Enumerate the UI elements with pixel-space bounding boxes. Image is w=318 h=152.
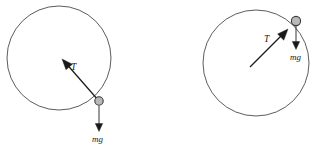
left-weight-arrowhead: [95, 124, 102, 132]
left-weight-label: mg: [92, 134, 103, 144]
right-circle-path: [203, 10, 309, 116]
right-weight-vector: mg: [290, 26, 301, 62]
right-bob: [291, 16, 300, 25]
right-diagram: T mg: [203, 10, 309, 116]
left-tension-label: T: [71, 62, 77, 72]
figure-canvas: T mg T mg: [0, 0, 318, 152]
right-weight-arrowhead: [292, 42, 299, 50]
right-weight-label: mg: [290, 52, 301, 62]
left-bob: [95, 97, 103, 105]
left-circle-path: [7, 6, 111, 110]
left-weight-vector: mg: [92, 106, 103, 144]
left-diagram: T mg: [7, 6, 111, 144]
right-tension-vector: T: [250, 29, 288, 67]
right-tension-label: T: [264, 34, 270, 44]
physics-figure: T mg T mg: [0, 0, 318, 152]
left-tension-vector: T: [62, 59, 99, 101]
